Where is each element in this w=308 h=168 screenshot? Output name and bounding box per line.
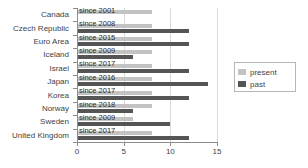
y-tick-8 <box>73 115 77 116</box>
bar-past-united-kingdom <box>77 136 189 140</box>
bar-chart: CanadaCzech RepublicEuro AreaIcelandIsra… <box>0 0 308 168</box>
category-label-united-kingdom: United Kingdom <box>12 131 69 140</box>
x-tick-15 <box>217 142 218 146</box>
bar-past-norway <box>77 109 133 113</box>
bar-present-korea <box>77 91 152 95</box>
y-tick-0 <box>73 8 77 9</box>
legend-label-present: present <box>250 68 277 77</box>
bar-present-israel <box>77 64 152 68</box>
x-axis-line <box>77 142 218 143</box>
x-axis-label-5: 5 <box>121 147 125 157</box>
y-tick-9 <box>73 129 77 130</box>
bar-present-euro-area <box>77 37 152 41</box>
legend-swatch-past <box>238 81 246 87</box>
bar-past-sweden <box>77 122 170 126</box>
category-label-euro-area: Euro Area <box>33 37 69 46</box>
y-axis-line <box>77 8 78 143</box>
category-label-japan: Japan <box>47 77 69 86</box>
y-tick-5 <box>73 75 77 76</box>
bar-past-iceland <box>77 55 133 59</box>
bar-past-korea <box>77 96 189 100</box>
bar-present-japan <box>77 77 152 81</box>
bar-past-japan <box>77 82 208 86</box>
category-label-czech-republic: Czech Republic <box>13 24 69 33</box>
bar-present-sweden <box>77 117 133 121</box>
y-tick-4 <box>73 62 77 63</box>
x-axis-label-10: 10 <box>166 147 175 157</box>
y-tick-1 <box>73 21 77 22</box>
bar-past-euro-area <box>77 42 189 46</box>
y-tick-3 <box>73 48 77 49</box>
category-label-norway: Norway <box>42 104 69 113</box>
bar-present-norway <box>77 104 152 108</box>
x-axis-label-0: 0 <box>75 147 79 157</box>
category-label-iceland: Iceland <box>43 50 69 59</box>
bar-present-czech-republic <box>77 24 152 28</box>
legend-label-past: past <box>250 80 265 89</box>
x-tick-0 <box>77 142 78 146</box>
legend-swatch-present <box>238 69 246 75</box>
bar-present-iceland <box>77 50 152 54</box>
bar-present-canada <box>77 10 152 14</box>
y-tick-end <box>73 142 77 143</box>
plot-area: since 2001since 2008since 2015since 2009… <box>77 8 217 142</box>
legend-item-present[interactable]: present <box>238 66 292 78</box>
category-label-canada: Canada <box>41 10 69 19</box>
y-tick-2 <box>73 35 77 36</box>
chart-legend: presentpast <box>234 62 296 92</box>
y-tick-6 <box>73 88 77 89</box>
bar-present-united-kingdom <box>77 131 152 135</box>
bar-past-czech-republic <box>77 29 189 33</box>
y-tick-7 <box>73 102 77 103</box>
category-label-korea: Korea <box>48 91 69 100</box>
x-axis-label-15: 15 <box>213 147 222 157</box>
x-tick-5 <box>124 142 125 146</box>
category-label-sweden: Sweden <box>40 117 69 126</box>
gridline-15 <box>217 8 218 142</box>
legend-item-past[interactable]: past <box>238 78 292 90</box>
category-axis-labels: CanadaCzech RepublicEuro AreaIcelandIsra… <box>0 8 72 142</box>
bar-past-israel <box>77 69 189 73</box>
category-label-israel: Israel <box>49 64 69 73</box>
x-tick-10 <box>170 142 171 146</box>
